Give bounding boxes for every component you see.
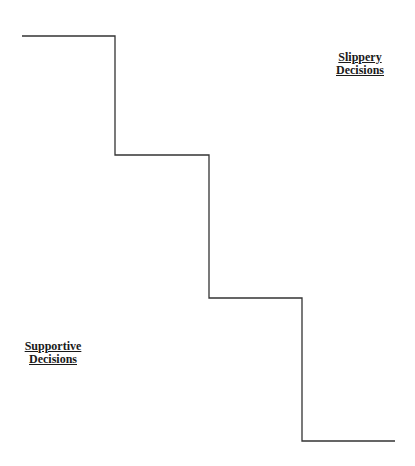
supportive-label-line2: Decisions — [20, 353, 86, 366]
slippery-label-line1: Slippery — [330, 51, 390, 64]
supportive-decisions-label: Supportive Decisions — [20, 340, 86, 365]
slippery-label-line2: Decisions — [330, 64, 390, 77]
supportive-label-line1: Supportive — [20, 340, 86, 353]
stair-steps — [22, 36, 395, 441]
slippery-decisions-label: Slippery Decisions — [330, 51, 390, 76]
staircase-diagram: Slippery Decisions Supportive Decisions — [0, 0, 415, 466]
